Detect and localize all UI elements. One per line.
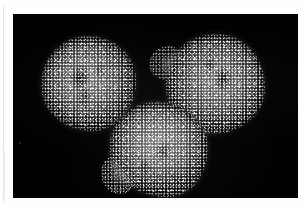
spheroid-bottom: [109, 102, 208, 197]
debris-fleck: [209, 40, 210, 41]
debris-fleck: [19, 142, 21, 144]
spheroid-rim-shading: [109, 102, 208, 197]
scan-artifact-line-lower: [4, 150, 5, 198]
debris-fleck: [97, 174, 98, 175]
micrograph-field: [13, 14, 298, 198]
figure-root: [0, 0, 306, 210]
